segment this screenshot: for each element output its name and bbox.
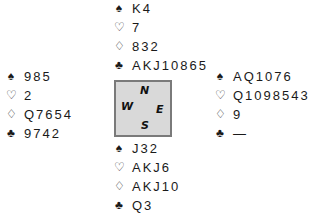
west-spades: 985: [24, 67, 52, 86]
compass-south: S: [141, 119, 149, 132]
heart-icon: ♡: [215, 86, 227, 105]
club-icon: ♣: [114, 196, 126, 214]
west-hearts: 2: [24, 86, 33, 105]
diamond-icon: ♢: [215, 105, 227, 124]
heart-icon: ♡: [114, 158, 126, 177]
heart-icon: ♡: [6, 86, 18, 105]
east-hearts: Q1098543: [233, 86, 310, 105]
south-diamonds: AKJ10: [132, 177, 180, 196]
club-icon: ♣: [6, 124, 18, 143]
spade-icon: ♠: [114, 139, 126, 158]
spade-icon: ♠: [114, 0, 126, 18]
east-diamonds: 9: [233, 105, 242, 124]
heart-icon: ♡: [114, 18, 126, 37]
diamond-icon: ♢: [114, 177, 126, 196]
north-diamonds: 832: [132, 37, 160, 56]
compass-box: N W E S: [114, 80, 172, 137]
north-clubs: AKJ10865: [132, 56, 208, 75]
east-clubs: —: [233, 124, 248, 143]
south-clubs: Q3: [132, 196, 153, 214]
west-clubs: 9742: [24, 124, 61, 143]
compass-east: E: [156, 103, 164, 116]
north-hearts: 7: [132, 18, 141, 37]
south-spades: J32: [132, 139, 159, 158]
north-spades: K4: [132, 0, 152, 18]
spade-icon: ♠: [215, 67, 227, 86]
compass-north: N: [140, 84, 149, 97]
west-diamonds: Q7654: [24, 105, 73, 124]
east-spades: AQ1076: [233, 67, 293, 86]
south-hearts: AKJ6: [132, 158, 171, 177]
diamond-icon: ♢: [6, 105, 18, 124]
spade-icon: ♠: [6, 67, 18, 86]
compass-west: W: [121, 100, 133, 113]
club-icon: ♣: [215, 124, 227, 143]
diamond-icon: ♢: [114, 37, 126, 56]
club-icon: ♣: [114, 56, 126, 75]
